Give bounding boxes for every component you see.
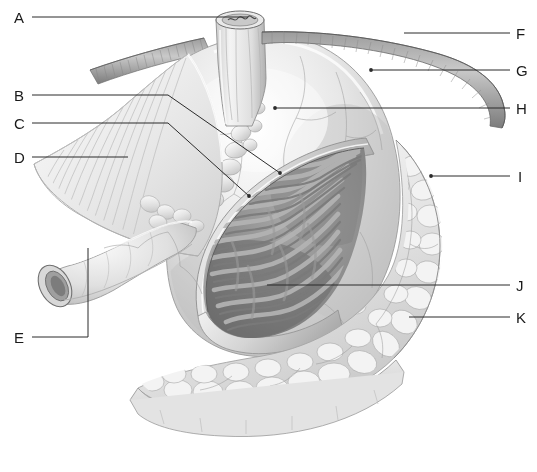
leader-lines xyxy=(0,0,537,472)
leader-dot-g xyxy=(369,68,373,72)
label-f: F xyxy=(516,26,525,41)
leader-line-e xyxy=(32,248,88,337)
label-i: I xyxy=(518,169,522,184)
label-j: J xyxy=(516,278,524,293)
leader-dot-c xyxy=(247,194,251,198)
leader-dot-h xyxy=(273,106,277,110)
leader-line-c xyxy=(32,123,249,196)
label-d: D xyxy=(14,150,25,165)
label-g: G xyxy=(516,63,528,78)
label-b: B xyxy=(14,88,24,103)
leader-dot-i xyxy=(429,174,433,178)
label-c: C xyxy=(14,116,25,131)
anatomy-figure: ABCDEFGHIJK xyxy=(0,0,537,472)
label-h: H xyxy=(516,101,527,116)
label-e: E xyxy=(14,330,24,345)
label-a: A xyxy=(14,10,24,25)
leader-line-b xyxy=(32,95,280,173)
label-k: K xyxy=(516,310,526,325)
leader-dot-b xyxy=(278,171,282,175)
